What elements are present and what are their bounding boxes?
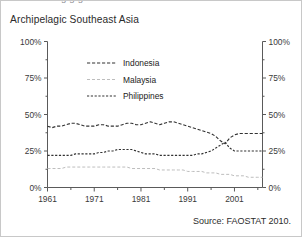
x-axis-label: 1981 xyxy=(132,194,151,204)
x-axis-label: 2001 xyxy=(225,194,244,204)
chart-figure: g g g Archipelagic Southeast Asia 0%0%25… xyxy=(0,0,302,237)
series-line-philippines xyxy=(48,142,263,155)
y-axis-label-right: 25% xyxy=(269,146,286,156)
y-axis-label-left: 100% xyxy=(20,37,42,47)
series-line-indonesia xyxy=(48,122,263,144)
legend-label-philippines: Philippines xyxy=(123,91,164,101)
x-axis-label: 1991 xyxy=(178,194,197,204)
legend-label-malaysia: Malaysia xyxy=(123,75,156,85)
y-axis-label-right: 75% xyxy=(269,73,286,83)
y-axis-label-left: 0% xyxy=(29,183,42,193)
x-axis-label: 1971 xyxy=(85,194,104,204)
series-line-malaysia xyxy=(48,167,263,177)
legend-label-indonesia: Indonesia xyxy=(123,58,160,68)
y-axis-label-left: 25% xyxy=(25,146,42,156)
source-note: Source: FAOSTAT 2010. xyxy=(193,216,291,226)
y-axis-label-right: 50% xyxy=(269,110,286,120)
x-axis-label: 1961 xyxy=(38,194,57,204)
y-axis-label-right: 0% xyxy=(269,183,282,193)
line-chart-plot: 0%0%25%25%50%50%75%75%100%100%1961197119… xyxy=(1,1,302,237)
y-axis-label-right: 100% xyxy=(269,37,291,47)
y-axis-label-left: 50% xyxy=(25,110,42,120)
y-axis-label-left: 75% xyxy=(25,73,42,83)
